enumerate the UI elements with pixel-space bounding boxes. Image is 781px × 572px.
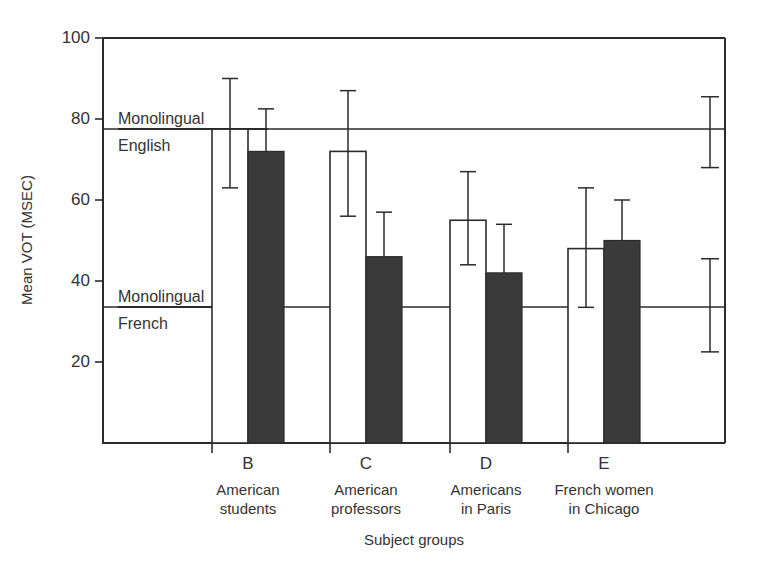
reference-line-monolingual-english: Monolingual English bbox=[103, 110, 725, 154]
y-tick-label-20: 20 bbox=[71, 352, 90, 371]
errorbar-B-filled bbox=[258, 109, 274, 152]
x-axis-title: Subject groups bbox=[364, 531, 464, 548]
bar-E-filled bbox=[604, 241, 640, 444]
group-name-E-line2: in Chicago bbox=[569, 500, 640, 517]
y-axis-ticks: 100 80 60 40 20 bbox=[62, 28, 103, 371]
y-tick-label-80: 80 bbox=[71, 109, 90, 128]
monolingual-french-label-top: Monolingual bbox=[118, 288, 204, 305]
group-name-D-line2: in Paris bbox=[461, 500, 511, 517]
reference-error-bars bbox=[701, 97, 719, 352]
y-tick-label-40: 40 bbox=[71, 271, 90, 290]
group-letter-C: C bbox=[360, 454, 372, 473]
y-axis-title: Mean VOT (MSEC) bbox=[18, 175, 35, 305]
monolingual-english-label-top: Monolingual bbox=[118, 110, 204, 127]
y-tick-label-60: 60 bbox=[71, 190, 90, 209]
group-letter-D: D bbox=[480, 454, 492, 473]
group-name-D-line1: Americans bbox=[451, 481, 522, 498]
figure-container: 100 80 60 40 20 Mean VOT (MSEC) Monoling… bbox=[0, 0, 781, 572]
reference-errorbar-monolingual-english bbox=[701, 97, 719, 168]
x-axis-category-labels: BAmericanstudentsCAmericanprofessorsDAme… bbox=[216, 454, 653, 517]
group-letter-B: B bbox=[242, 454, 253, 473]
group-name-E-line1: French women bbox=[554, 481, 653, 498]
vot-bar-chart: 100 80 60 40 20 Mean VOT (MSEC) Monoling… bbox=[0, 0, 781, 572]
bar-D-filled bbox=[486, 273, 522, 443]
group-name-C-line1: American bbox=[334, 481, 397, 498]
monolingual-english-label-bottom: English bbox=[118, 137, 170, 154]
group-letter-E: E bbox=[598, 454, 609, 473]
y-tick-label-100: 100 bbox=[62, 28, 90, 47]
bars-layer bbox=[212, 79, 640, 454]
monolingual-french-label-bottom: French bbox=[118, 315, 168, 332]
bar-C-filled bbox=[366, 257, 402, 443]
bar-B-filled bbox=[248, 151, 284, 443]
errorbar-D-filled bbox=[496, 224, 512, 273]
errorbar-E-filled bbox=[614, 200, 630, 241]
reference-errorbar-monolingual-french bbox=[701, 259, 719, 352]
group-name-B-line2: students bbox=[220, 500, 277, 517]
errorbar-C-filled bbox=[376, 212, 392, 257]
group-name-B-line1: American bbox=[216, 481, 279, 498]
group-name-C-line2: professors bbox=[331, 500, 401, 517]
